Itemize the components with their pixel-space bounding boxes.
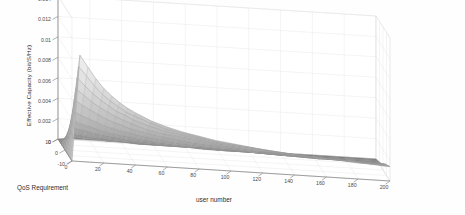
- z-tick-label: 0.008: [38, 57, 51, 63]
- x-tick-label: 80: [190, 172, 196, 178]
- z-tick-label: 0.01: [41, 37, 51, 43]
- y-tick: [53, 139, 59, 142]
- y-tick: [60, 150, 66, 153]
- z-tick: [53, 37, 59, 40]
- x-tick-label: 20: [95, 166, 101, 172]
- z-tick: [53, 57, 59, 60]
- y-tick-label: 0: [55, 150, 58, 156]
- x-tick-label: 160: [316, 180, 325, 186]
- surface-plot: 0204060801001201401601802000.0140.0120.0…: [0, 0, 465, 215]
- z-tick: [53, 78, 59, 81]
- figure-canvas: 0204060801001201401601802000.0140.0120.0…: [0, 0, 465, 215]
- z-tick: [53, 98, 59, 101]
- z-tick-label: 0.002: [38, 118, 51, 124]
- x-tick-label: 140: [284, 178, 293, 184]
- axes-walls: [58, 0, 390, 181]
- z-tick-label: 0.006: [38, 78, 51, 84]
- plot-box: 0204060801001201401601802000.0140.0120.0…: [38, 0, 390, 190]
- z-tick: [53, 16, 59, 19]
- x-tick-label: 120: [252, 176, 261, 182]
- x-tick-label: 40: [127, 168, 133, 174]
- y-tick-label: -10: [58, 161, 66, 167]
- y-tick: [67, 161, 73, 164]
- y-tick-label: 10: [45, 139, 51, 145]
- x-tick-label: 0: [65, 164, 68, 170]
- z-tick-label: 0.012: [38, 16, 51, 22]
- z-tick: [53, 119, 59, 122]
- x-tick-label: 180: [348, 182, 357, 188]
- x-tick-label: 60: [159, 170, 165, 176]
- z-tick-label: 0.014: [38, 0, 51, 2]
- x-tick-label: 100: [221, 174, 230, 180]
- x-tick-label: 200: [380, 184, 389, 190]
- z-tick-label: 0.004: [38, 98, 51, 104]
